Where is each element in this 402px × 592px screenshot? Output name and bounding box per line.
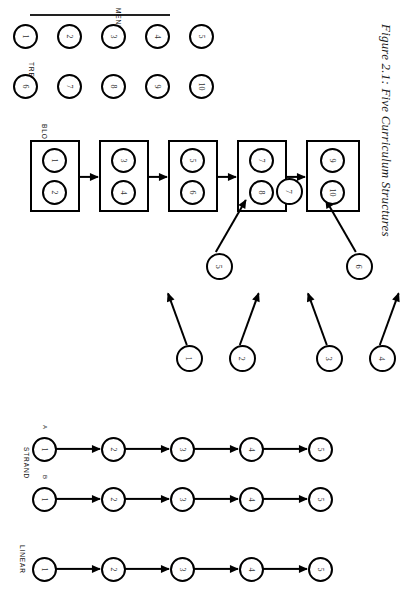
label-linear: LINEAR — [19, 545, 26, 574]
linear-node: 2 — [101, 557, 126, 582]
strand-b-arrow — [125, 498, 169, 500]
menu-node: 7 — [57, 74, 82, 99]
tree-leaf-node: 2 — [229, 345, 256, 372]
block-node: 4 — [111, 180, 136, 205]
menu-node: 3 — [101, 24, 126, 49]
strand-b-node: 5 — [308, 487, 333, 512]
tree-root-node: 7 — [276, 178, 303, 205]
block-node: 9 — [320, 148, 345, 173]
block-node: 7 — [249, 148, 274, 173]
menu-node: 6 — [13, 74, 38, 99]
strand-a-arrow — [125, 448, 169, 450]
linear-arrow — [194, 568, 238, 570]
strand-b-arrow — [194, 498, 238, 500]
block-node: 3 — [111, 148, 136, 173]
strand-a-node: 1 — [32, 437, 57, 462]
block-node: 2 — [42, 180, 67, 205]
strand-a-arrow — [56, 448, 100, 450]
menu-node: 9 — [145, 74, 170, 99]
linear-node: 3 — [170, 557, 195, 582]
menu-node: 2 — [57, 24, 82, 49]
tree-leaf-node: 4 — [369, 345, 396, 372]
menu-node: 4 — [145, 24, 170, 49]
block-link-arrow — [148, 176, 167, 178]
strand-a-arrow — [194, 448, 238, 450]
tree-leaf-node: 1 — [176, 345, 203, 372]
linear-arrow — [125, 568, 169, 570]
strand-b-arrow — [56, 498, 100, 500]
tree-leaf-node: 3 — [316, 345, 343, 372]
linear-node: 1 — [32, 557, 57, 582]
block-node: 10 — [320, 180, 345, 205]
block-link-arrow — [79, 176, 98, 178]
strand-a-node: 3 — [170, 437, 195, 462]
tree-parent-node: 6 — [346, 253, 373, 280]
strand-a-node: 5 — [308, 437, 333, 462]
strand-b-node: 3 — [170, 487, 195, 512]
linear-node: 5 — [308, 557, 333, 582]
strand-a-node: 2 — [101, 437, 126, 462]
strand-b-node: 4 — [239, 487, 264, 512]
strand-b-node: 1 — [32, 487, 57, 512]
block-node: 5 — [180, 148, 205, 173]
menu-node: 8 — [101, 74, 126, 99]
strand-b-arrow — [263, 498, 307, 500]
menu-node: 1 — [13, 24, 38, 49]
linear-arrow — [56, 568, 100, 570]
menu-node: 5 — [189, 24, 214, 49]
strand-b-node: 2 — [101, 487, 126, 512]
block-node: 1 — [42, 148, 67, 173]
strand-a-arrow — [263, 448, 307, 450]
menu-node: 10 — [189, 74, 214, 99]
linear-arrow — [263, 568, 307, 570]
block-node: 6 — [180, 180, 205, 205]
strand-a-node: 4 — [239, 437, 264, 462]
linear-node: 4 — [239, 557, 264, 582]
block-link-arrow — [217, 176, 236, 178]
block-node: 8 — [249, 180, 274, 205]
tree-parent-node: 5 — [206, 253, 233, 280]
